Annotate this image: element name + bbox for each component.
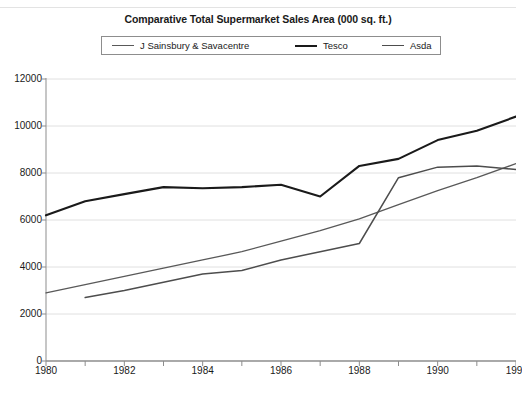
x-axis-tick-label: 1988 xyxy=(348,366,370,376)
x-axis-tick-label: 1984 xyxy=(192,366,214,376)
x-axis-tick-label: 199 xyxy=(506,366,522,376)
x-axis-tick-label: 1986 xyxy=(270,366,292,376)
series-line-tesco xyxy=(46,117,516,216)
x-axis-tick-label: 1980 xyxy=(35,366,57,376)
x-axis-tick-label: 1990 xyxy=(427,366,449,376)
x-axis-tick-label: 1982 xyxy=(113,366,135,376)
series-line-j-sainsbury-savacentre xyxy=(46,164,516,293)
